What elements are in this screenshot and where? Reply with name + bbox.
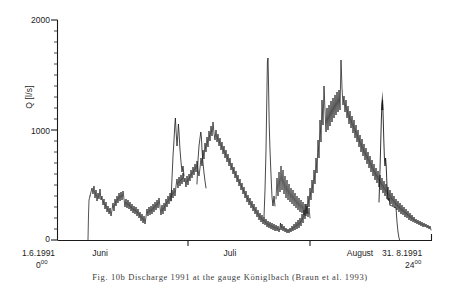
x-month-label-juli: Juli xyxy=(205,248,255,258)
x-month-label-juni: Juni xyxy=(70,248,130,258)
discharge-series-line-end xyxy=(390,205,400,240)
discharge-series-line-start xyxy=(88,196,90,240)
peak-june-main xyxy=(171,118,184,201)
discharge-series-july-oscillation xyxy=(276,166,310,218)
x-axis-start-date: 1.6.1991 xyxy=(22,248,55,258)
figure-caption-text: Fig. 10b Discharge 1991 at the gauge Kön… xyxy=(92,272,367,282)
peak-arrow-marker xyxy=(381,91,383,110)
y-axis-title: Q [l/s] xyxy=(24,62,34,132)
x-axis-end-time-sup: 00 xyxy=(414,259,421,265)
x-axis-start-time-sup: 00 xyxy=(41,259,48,265)
discharge-chart-canvas xyxy=(0,0,460,284)
discharge-series-line xyxy=(90,60,431,233)
figure-hydrograph: Q [l/s] 2000 1000 0 Juni Juli August 1.6… xyxy=(0,0,460,284)
peak-july-main xyxy=(264,58,275,217)
x-axis-end-date: 31. 8.1991 xyxy=(382,248,422,258)
x-axis-end-time: 2400 xyxy=(405,259,422,270)
y-tick-label-1000: 1000 xyxy=(14,126,50,136)
x-axis-start-time: 000 xyxy=(36,259,48,270)
y-tick-label-2000: 2000 xyxy=(14,15,50,25)
x-month-label-august: August xyxy=(330,248,390,258)
figure-caption: Fig. 10b Discharge 1991 at the gauge Kön… xyxy=(0,272,460,282)
y-tick-label-0: 0 xyxy=(14,234,50,244)
